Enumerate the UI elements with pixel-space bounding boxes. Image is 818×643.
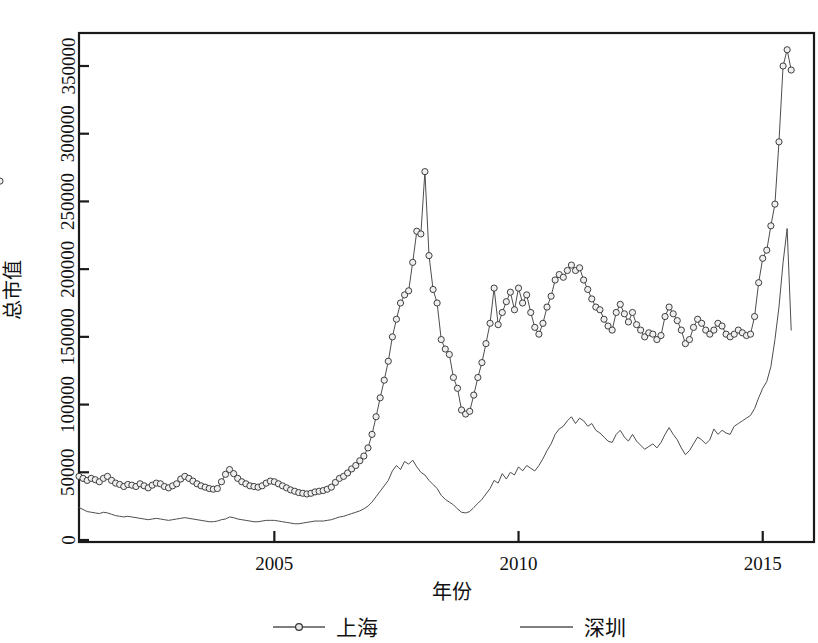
data-point-marker	[552, 277, 558, 283]
data-point-marker	[524, 292, 530, 298]
data-point-marker	[670, 311, 676, 317]
data-point-marker	[426, 253, 432, 259]
data-point-marker	[528, 309, 534, 315]
data-point-marker	[564, 267, 570, 273]
data-point-marker	[422, 169, 428, 175]
data-point-marker	[585, 286, 591, 292]
data-point-marker	[609, 327, 615, 333]
data-point-marker	[576, 265, 582, 271]
data-point-marker	[756, 280, 762, 286]
y-tick-label: 350000	[58, 38, 79, 95]
y-tick-label: 0	[58, 535, 79, 545]
data-point-marker	[377, 395, 383, 401]
data-point-marker	[406, 288, 412, 294]
data-point-marker	[625, 319, 631, 325]
data-point-marker	[507, 289, 513, 295]
legend-marker-circle-icon	[296, 624, 303, 631]
data-point-marker	[410, 259, 416, 265]
data-point-marker	[760, 255, 766, 261]
data-point-marker	[568, 262, 574, 268]
data-point-marker	[674, 318, 680, 324]
data-point-marker	[711, 327, 717, 333]
data-point-marker	[487, 320, 493, 326]
y-axis-tick-labels: 0500001000001500002000002500003000003500…	[58, 38, 79, 545]
data-point-marker	[499, 309, 505, 315]
data-point-marker	[532, 324, 538, 330]
data-point-marker	[430, 286, 436, 292]
data-point-marker	[699, 320, 705, 326]
legend-item-shenzhen: 深圳	[520, 616, 626, 640]
data-point-marker	[519, 300, 525, 306]
data-point-marker	[638, 327, 644, 333]
data-point-marker	[450, 374, 456, 380]
data-point-marker	[581, 277, 587, 283]
data-point-marker	[629, 309, 635, 315]
data-point-marker	[438, 336, 444, 342]
data-point-marker	[601, 316, 607, 322]
data-point-marker	[784, 47, 790, 53]
data-point-marker	[511, 307, 517, 313]
y-tick-label: 300000	[58, 105, 79, 162]
data-point-marker	[454, 385, 460, 391]
data-point-marker	[540, 320, 546, 326]
data-point-marker	[690, 324, 696, 330]
data-point-marker	[467, 408, 473, 414]
data-point-marker	[633, 322, 639, 328]
data-point-marker	[361, 453, 367, 459]
data-point-marker	[548, 293, 554, 299]
data-point-marker	[373, 414, 379, 420]
data-point-marker	[678, 327, 684, 333]
y-tick-label: 200000	[58, 241, 79, 298]
data-point-marker	[686, 336, 692, 342]
data-point-marker	[768, 223, 774, 229]
data-point-marker	[751, 313, 757, 319]
data-point-marker	[719, 323, 725, 329]
data-point-marker	[747, 331, 753, 337]
data-point-marker	[788, 67, 794, 73]
y-tick-label: 250000	[58, 173, 79, 230]
data-point-marker	[560, 274, 566, 280]
data-point-marker	[650, 331, 656, 337]
x-tick-label: 2010	[500, 553, 538, 574]
legend-label-shenzhen: 深圳	[584, 616, 626, 640]
chart-figure: 0500001000001500002000002500003000003500…	[0, 0, 818, 643]
data-point-marker	[662, 313, 668, 319]
data-point-marker	[495, 322, 501, 328]
data-point-marker	[544, 304, 550, 310]
data-point-marker	[491, 285, 497, 291]
data-point-marker	[214, 485, 220, 491]
x-tick-label: 2005	[255, 553, 293, 574]
plot-frame	[79, 33, 814, 542]
data-point-marker	[369, 431, 375, 437]
data-point-marker	[666, 304, 672, 310]
data-point-marker	[483, 341, 489, 347]
data-point-marker	[397, 300, 403, 306]
data-point-marker	[617, 301, 623, 307]
chart-canvas: 0500001000001500002000002500003000003500…	[0, 0, 818, 643]
data-point-marker	[536, 331, 542, 337]
x-axis-tick-labels: 200520102015	[255, 553, 781, 574]
legend-label-shanghai: 上海	[336, 616, 378, 640]
y-axis-title: 总市值	[1, 260, 25, 320]
data-point-marker	[434, 300, 440, 306]
data-point-marker	[772, 201, 778, 207]
data-point-marker	[475, 374, 481, 380]
data-point-marker	[658, 332, 664, 338]
data-point-marker	[780, 63, 786, 69]
data-point-marker	[613, 309, 619, 315]
data-point-marker	[597, 307, 603, 313]
data-point-marker	[589, 296, 595, 302]
data-point-marker	[446, 351, 452, 357]
data-point-marker	[515, 285, 521, 291]
data-point-marker	[365, 445, 371, 451]
data-point-marker	[0, 178, 3, 184]
data-point-marker	[479, 359, 485, 365]
legend-item-shanghai: 上海	[273, 616, 378, 640]
data-point-marker	[776, 139, 782, 145]
data-point-marker	[381, 377, 387, 383]
data-point-marker	[418, 231, 424, 237]
data-point-marker	[442, 346, 448, 352]
data-point-marker	[764, 247, 770, 253]
data-point-marker	[503, 299, 509, 305]
data-point-marker	[385, 358, 391, 364]
